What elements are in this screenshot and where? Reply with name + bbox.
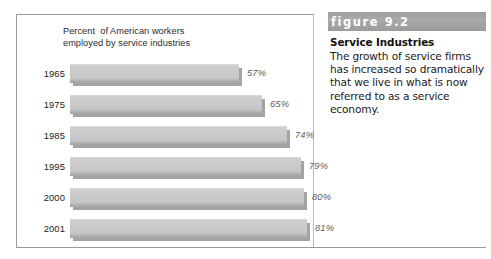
figure-caption-panel: figure 9.2 Service Industries The growth… xyxy=(328,12,486,116)
bar-chart: 196557%197565%198574%199579%200080%20018… xyxy=(17,62,315,248)
figure-number-label: figure 9.2 xyxy=(328,15,410,29)
bar-category-label: 2001 xyxy=(17,223,65,234)
chart-title-line-1: Percent of American workers xyxy=(63,26,184,36)
bar-value-label: 81% xyxy=(315,222,334,233)
bar-row: 199579% xyxy=(17,155,315,186)
bar-value-label: 57% xyxy=(247,67,266,78)
bar-category-label: 1985 xyxy=(17,130,65,141)
chart-panel: Percent of American workers employed by … xyxy=(16,14,314,248)
bar-value-label: 79% xyxy=(309,160,328,171)
bar-value-label: 80% xyxy=(312,191,331,202)
bar-row: 200181% xyxy=(17,217,315,248)
bar-value-label: 65% xyxy=(270,98,289,109)
bar-row: 196557% xyxy=(17,62,315,93)
bar-category-label: 1975 xyxy=(17,99,65,110)
chart-title-line-2: employed by service industries xyxy=(63,38,190,48)
bar-shape xyxy=(70,219,307,238)
bar-category-label: 2000 xyxy=(17,192,65,203)
bar-track: 79% xyxy=(70,157,315,180)
bar-shape xyxy=(70,95,262,114)
bar-value-label: 74% xyxy=(295,129,314,140)
bar-track: 65% xyxy=(70,95,315,118)
figure-heading: Service Industries xyxy=(328,36,486,48)
bar-category-label: 1965 xyxy=(17,68,65,79)
bar-row: 197565% xyxy=(17,93,315,124)
bar-track: 81% xyxy=(70,219,315,242)
chart-title: Percent of American workers employed by … xyxy=(63,26,190,49)
bar-category-label: 1995 xyxy=(17,161,65,172)
bar-row: 200080% xyxy=(17,186,315,217)
bar-shape xyxy=(70,157,301,176)
bar-row: 198574% xyxy=(17,124,315,155)
bar-track: 80% xyxy=(70,188,315,211)
bar-track: 57% xyxy=(70,64,315,87)
bar-shape xyxy=(70,64,239,83)
bar-shape xyxy=(70,126,287,145)
figure-body-text: The growth of service firms has increase… xyxy=(328,50,486,116)
figure-number-bar: figure 9.2 xyxy=(328,12,486,31)
bottom-divider xyxy=(16,247,486,248)
bar-track: 74% xyxy=(70,126,315,149)
bar-shape xyxy=(70,188,304,207)
